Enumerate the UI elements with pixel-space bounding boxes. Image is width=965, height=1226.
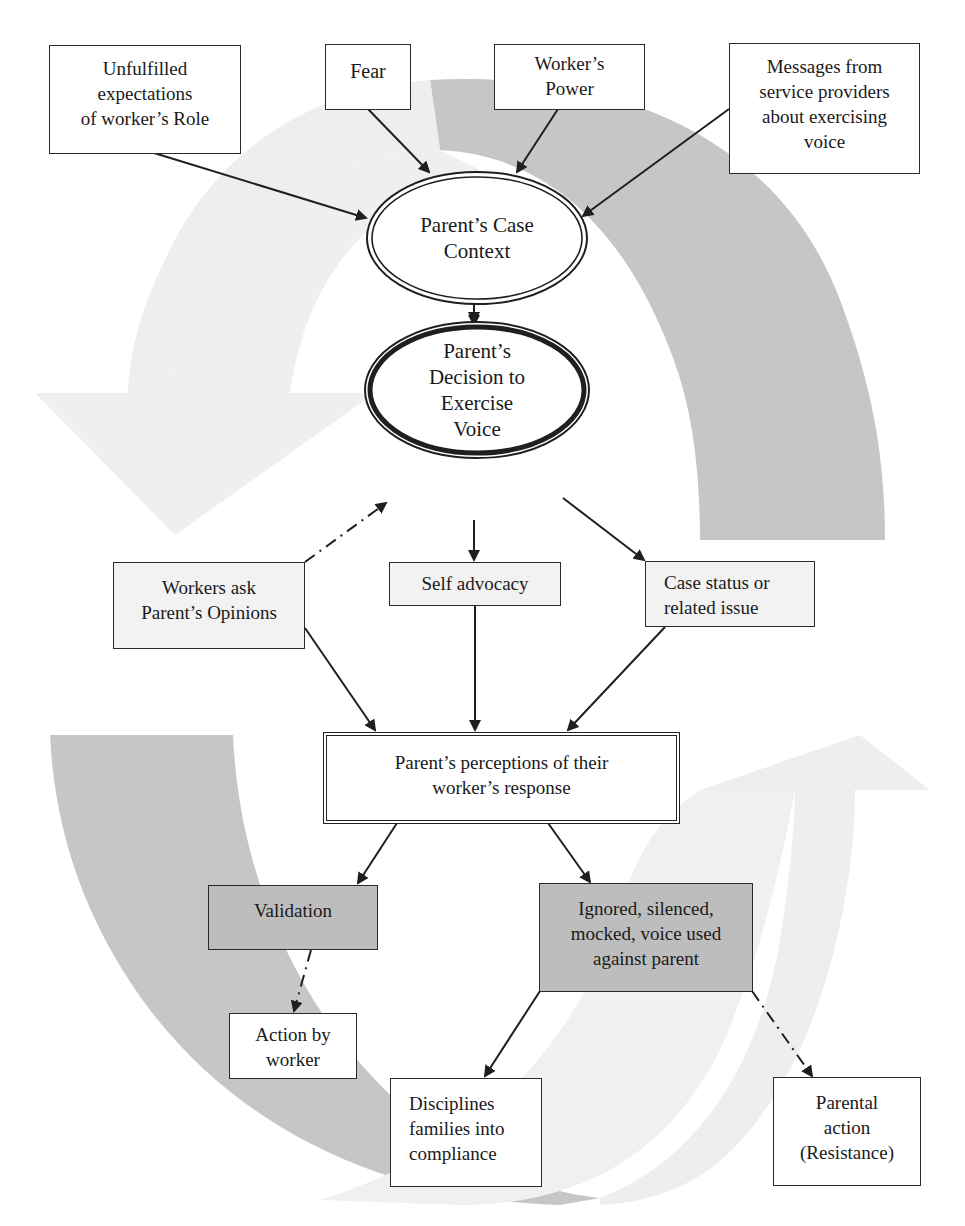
edge-perceptions-to-validation bbox=[358, 823, 397, 883]
node-label: Action by worker bbox=[255, 1022, 330, 1072]
node-self-advocacy: Self advocacy bbox=[389, 562, 561, 606]
case-context-label: Parent’s Case Context bbox=[420, 212, 534, 264]
node-label: Messages from service providers about ex… bbox=[759, 54, 889, 154]
node-label: Parental action (Resistance) bbox=[800, 1090, 894, 1165]
edge-validation-to-action bbox=[294, 950, 311, 1011]
diagram-canvas: Unfulfilled expectations of worker’s Rol… bbox=[0, 0, 965, 1226]
node-label: Validation bbox=[254, 898, 332, 923]
node-label: Unfulfilled expectations of worker’s Rol… bbox=[81, 56, 209, 131]
node-messages-from-providers: Messages from service providers about ex… bbox=[729, 43, 920, 174]
node-workers-power: Worker’s Power bbox=[494, 44, 645, 110]
edge-messages-to-context bbox=[583, 109, 729, 216]
node-label: Self advocacy bbox=[421, 571, 528, 596]
node-workers-ask-opinions: Workers ask Parent’s Opinions bbox=[113, 562, 305, 649]
edge-unfulfilled-to-context bbox=[154, 153, 366, 218]
node-label: Workers ask Parent’s Opinions bbox=[141, 575, 277, 625]
node-parent-perceptions: Parent’s perceptions of their worker’s r… bbox=[323, 732, 680, 824]
node-label: Case status or related issue bbox=[664, 570, 770, 620]
node-label: Ignored, silenced, mocked, voice used ag… bbox=[571, 896, 721, 971]
case-context-label-wrap: Parent’s Case Context bbox=[377, 190, 577, 285]
node-fear: Fear bbox=[325, 44, 411, 110]
edge-power-to-context bbox=[517, 109, 558, 172]
node-action-by-worker: Action by worker bbox=[229, 1013, 357, 1079]
node-unfulfilled-expectations: Unfulfilled expectations of worker’s Rol… bbox=[49, 45, 241, 154]
node-label: Disciplines families into compliance bbox=[409, 1091, 505, 1166]
node-case-status: Case status or related issue bbox=[645, 561, 815, 627]
edge-perceptions-to-ignored bbox=[548, 823, 590, 882]
decision-label: Parent’s Decision to Exercise Voice bbox=[429, 338, 525, 442]
edge-workers-ask-to-decision bbox=[305, 503, 386, 562]
edge-workers-ask-to-perceptions bbox=[305, 628, 375, 730]
edge-ignored-to-parental-action bbox=[752, 991, 812, 1076]
edge-decision-to-case-status bbox=[563, 498, 644, 560]
node-disciplines-compliance: Disciplines families into compliance bbox=[390, 1078, 542, 1187]
node-label: Parent’s perceptions of their worker’s r… bbox=[395, 750, 609, 800]
edge-case-status-to-perceptions bbox=[568, 627, 665, 730]
edge-ignored-to-disciplines bbox=[485, 991, 540, 1076]
decision-label-wrap: Parent’s Decision to Exercise Voice bbox=[377, 335, 577, 445]
node-label: Worker’s Power bbox=[535, 51, 605, 101]
node-ignored-silenced: Ignored, silenced, mocked, voice used ag… bbox=[539, 883, 753, 992]
node-validation: Validation bbox=[208, 885, 378, 950]
edge-fear-to-context bbox=[368, 109, 429, 172]
node-label: Fear bbox=[350, 59, 386, 84]
node-parental-action: Parental action (Resistance) bbox=[773, 1077, 921, 1186]
